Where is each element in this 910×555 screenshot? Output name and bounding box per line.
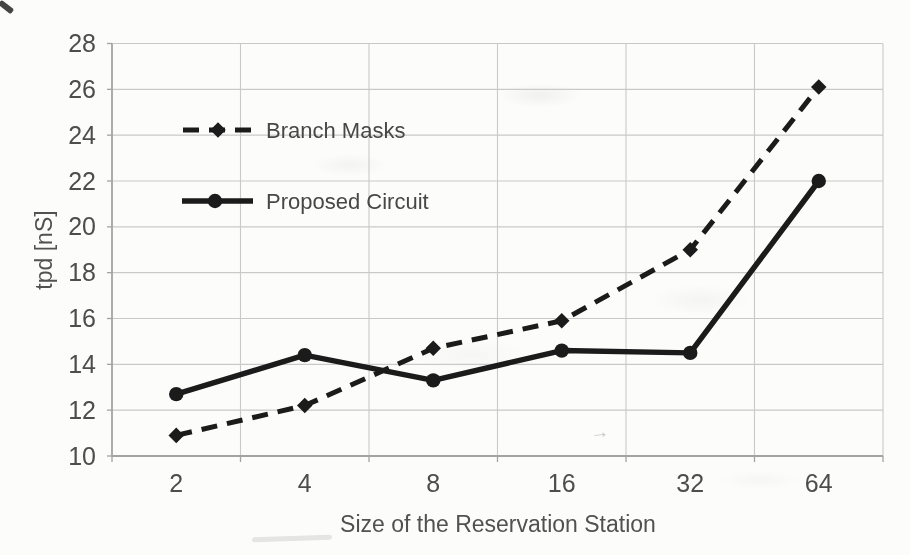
y-tick-label-20: 20 bbox=[68, 212, 96, 240]
legend-label-branch-masks: Branch Masks bbox=[266, 118, 405, 143]
marker-circle-proposed-circuit-64 bbox=[812, 174, 826, 188]
y-tick-label-22: 22 bbox=[68, 167, 96, 195]
marker-circle-proposed-circuit-8 bbox=[426, 373, 440, 387]
x-tick-label-2: 2 bbox=[169, 469, 183, 497]
scan-artifact-arrow: → bbox=[589, 420, 609, 443]
y-axis-title: tpd [nS] bbox=[31, 210, 57, 289]
y-tick-label-24: 24 bbox=[68, 121, 96, 149]
circle-marker-icon bbox=[208, 194, 222, 208]
y-tick-label-16: 16 bbox=[68, 304, 96, 332]
plot-area: 10121416182022242628248163264 bbox=[68, 29, 883, 497]
marker-circle-proposed-circuit-4 bbox=[298, 348, 312, 362]
x-tick-label-4: 4 bbox=[298, 469, 312, 497]
line-chart: 10121416182022242628248163264 Branch Mas… bbox=[0, 0, 910, 555]
x-tick-label-8: 8 bbox=[426, 469, 440, 497]
y-tick-label-12: 12 bbox=[68, 396, 96, 424]
scanned-chart-page: → 10121416182022242628248163264 Branch M… bbox=[0, 0, 910, 555]
marker-circle-proposed-circuit-16 bbox=[555, 343, 569, 357]
marker-diamond-branch-masks-8 bbox=[425, 341, 441, 357]
x-axis-title: Size of the Reservation Station bbox=[340, 511, 656, 537]
marker-diamond-branch-masks-16 bbox=[554, 313, 570, 329]
x-tick-label-16: 16 bbox=[548, 469, 576, 497]
marker-diamond-branch-masks-4 bbox=[297, 398, 313, 414]
x-tick-label-32: 32 bbox=[676, 469, 704, 497]
y-tick-label-10: 10 bbox=[68, 442, 96, 470]
marker-diamond-branch-masks-2 bbox=[168, 428, 184, 444]
y-tick-label-28: 28 bbox=[68, 29, 96, 57]
marker-diamond-branch-masks-64 bbox=[811, 79, 827, 95]
marker-circle-proposed-circuit-32 bbox=[683, 346, 697, 360]
legend: Branch Masks Proposed Circuit bbox=[182, 118, 429, 214]
legend-label-proposed-circuit: Proposed Circuit bbox=[266, 189, 429, 214]
marker-circle-proposed-circuit-2 bbox=[169, 387, 183, 401]
y-tick-label-18: 18 bbox=[68, 258, 96, 286]
x-tick-label-64: 64 bbox=[805, 469, 833, 497]
y-tick-label-26: 26 bbox=[68, 75, 96, 103]
y-tick-label-14: 14 bbox=[68, 350, 96, 378]
